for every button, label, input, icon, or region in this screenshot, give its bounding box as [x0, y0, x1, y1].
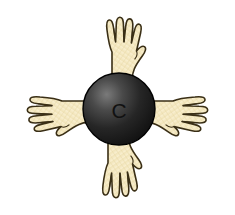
carbon-atom-diagram: C — [0, 0, 235, 215]
diagram-canvas: C — [0, 0, 235, 215]
hand-up-crease-2 — [124, 26, 125, 42]
carbon-atom: C — [83, 73, 155, 145]
hand-down-crease-2 — [120, 173, 121, 189]
atom-label: C — [111, 99, 126, 122]
hand-left-crease-2 — [36, 114, 52, 115]
hand-right-crease-2 — [183, 114, 199, 115]
